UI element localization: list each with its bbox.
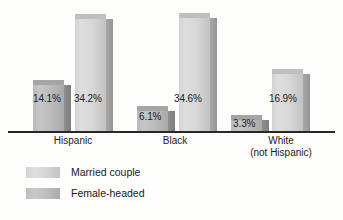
bar-value-white-married-couple: 3.3%: [233, 118, 255, 129]
legend-label-female-headed: Female-headed: [71, 187, 145, 199]
bar-side-face: [262, 120, 269, 131]
category-label-white: White (not Hispanic): [228, 135, 334, 159]
bar-value-black-married-couple: 6.1%: [139, 111, 161, 122]
legend-item-married-couple[interactable]: Married couple: [26, 163, 145, 181]
bar-front-face: [179, 18, 210, 131]
bar-chart: 14.1% 34.2% 6.1% 34.6% 3.3%: [0, 0, 343, 220]
legend-label-married-couple: Married couple: [71, 166, 140, 178]
bar-side-face: [303, 74, 310, 131]
bar-value-black-female-headed: 34.6%: [174, 93, 202, 104]
bar-value-hispanic-married-couple: 14.1%: [33, 93, 61, 104]
bar-front-face: [75, 19, 106, 131]
bar-side-face: [168, 111, 175, 131]
bar-value-white-female-headed: 16.9%: [269, 93, 297, 104]
legend-swatch-female-headed: [26, 188, 60, 199]
category-label-hispanic: Hispanic: [30, 135, 116, 147]
bar-hispanic-female-headed[interactable]: [75, 19, 106, 131]
category-label-line1: Black: [163, 135, 187, 146]
bar-side-face: [106, 19, 113, 131]
bar-hispanic-married-couple[interactable]: [33, 85, 64, 131]
legend: Married couple Female-headed: [26, 163, 145, 205]
category-label-line1: Hispanic: [54, 135, 92, 146]
category-label-line2: (not Hispanic): [228, 147, 334, 159]
legend-swatch-married-couple: [26, 167, 60, 178]
bar-front-face: [33, 85, 64, 131]
category-label-black: Black: [140, 135, 210, 147]
category-label-line1: White: [268, 135, 294, 146]
bar-side-face: [210, 18, 217, 131]
legend-item-female-headed[interactable]: Female-headed: [26, 184, 145, 202]
bar-value-hispanic-female-headed: 34.2%: [74, 93, 102, 104]
bar-side-face: [64, 85, 71, 131]
bar-black-female-headed[interactable]: [179, 18, 210, 131]
plot-area: 14.1% 34.2% 6.1% 34.6% 3.3%: [0, 0, 343, 140]
axis-baseline: [8, 131, 335, 133]
